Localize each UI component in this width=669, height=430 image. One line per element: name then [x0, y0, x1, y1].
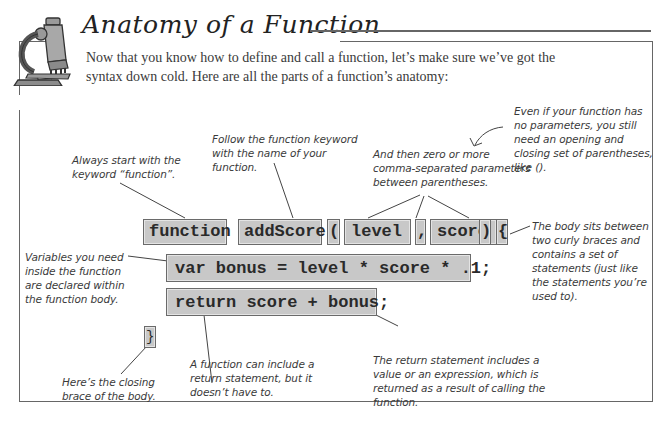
- annotation-function-name: Follow the function keyword with the nam…: [212, 132, 372, 174]
- code-keyword-function: function: [143, 219, 227, 245]
- code-function-name: addScore: [238, 219, 322, 245]
- annotation-variables: Variables you need inside the function a…: [25, 250, 137, 306]
- code-open-brace: {: [496, 219, 508, 245]
- code-comma: ,: [415, 219, 426, 245]
- code-close-paren-box: ): [479, 219, 491, 245]
- annotation-return-statement: The return statement includes a value or…: [373, 353, 553, 409]
- annotation-no-parameters: Even if your function has no parameters,…: [514, 104, 654, 174]
- annotation-optional-return: A function can include a return statemen…: [190, 357, 330, 399]
- annotation-lines: [0, 0, 669, 430]
- annotation-body: The body sits between two curly braces a…: [532, 219, 650, 303]
- code-close-brace: }: [144, 326, 156, 348]
- code-open-paren: (: [327, 219, 340, 245]
- annotation-closing-brace: Here’s the closing brace of the body.: [62, 375, 167, 403]
- annotation-parameters: And then zero or more comma-separated pa…: [373, 147, 533, 189]
- code-line-var-bonus: var bonus = level * score * .1;: [166, 254, 471, 282]
- code-param-level: level: [344, 219, 411, 245]
- code-line-return: return score + bonus;: [166, 288, 377, 316]
- annotation-keyword: Always start with the keyword “function”…: [72, 153, 192, 181]
